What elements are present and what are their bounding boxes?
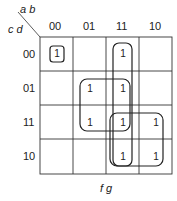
cell-r2-c2: 1 [118,118,128,128]
cell-r3-c3: 1 [151,152,161,162]
cell-r0-c0: 1 [52,49,62,59]
kmap-grid [0,0,177,201]
cell-r3-c2: 1 [118,152,128,162]
bottom-variables-label: f g [100,183,112,194]
cell-r0-c2: 1 [118,49,128,59]
cell-r2-c1: 1 [85,118,95,128]
cell-r2-c3: 1 [151,118,161,128]
cell-r1-c1: 1 [85,84,95,94]
group-loop-column-11 [113,43,132,166]
cell-r1-c2: 1 [118,84,128,94]
